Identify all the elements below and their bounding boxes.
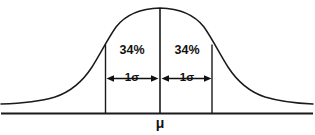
sigma-label-left: 1σ [116, 72, 148, 84]
area-label-left: 34% [110, 44, 154, 57]
normal-distribution-figure: 34% 34% 1σ 1σ μ [0, 0, 315, 135]
arrow-right-head [151, 75, 159, 82]
bell-curve-path [1, 8, 313, 104]
arrow-left-head [107, 75, 115, 82]
mean-axis-label: μ [145, 116, 175, 131]
arrow-left-head [162, 75, 170, 82]
area-label-right: 34% [165, 44, 209, 57]
sigma-label-right: 1σ [171, 72, 203, 84]
arrow-right-head [204, 75, 212, 82]
